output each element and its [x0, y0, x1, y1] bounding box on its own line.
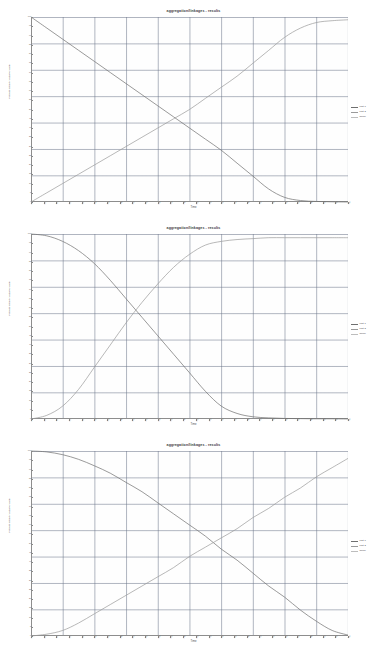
y-tick-mark [31, 243, 33, 244]
y-tick-mark [31, 544, 33, 545]
x-tick-label: 340 [247, 635, 250, 639]
legend-item[interactable]: whole [351, 549, 385, 553]
y-tick-mark [31, 627, 33, 628]
y-axis-label: Process Count / Variable Value [8, 40, 11, 124]
y-tick-mark [31, 497, 33, 498]
y-tick-mark [31, 488, 33, 489]
series-canvas [31, 451, 348, 636]
y-axis-ticks: 1009590858075706560555045403530252015105… [20, 451, 31, 636]
x-tick-label: 80 [82, 202, 85, 205]
y-tick-mark [31, 45, 33, 46]
y-tick-mark [31, 571, 33, 572]
y-axis-ticks: 1009590858075706560555045403530252015105… [20, 17, 31, 202]
chart-panel-3: aggregation/linkages - results1009590858… [0, 434, 387, 651]
x-tick-label: 40 [56, 202, 59, 205]
x-tick-label: 480 [335, 201, 338, 205]
x-axis-label: Time [0, 640, 387, 643]
x-tick-label: 500 [348, 635, 351, 639]
x-tick-label: 120 [107, 201, 110, 205]
legend-swatch-icon [351, 334, 358, 335]
y-tick-mark [31, 581, 33, 582]
chart-title: aggregation/linkages - results [0, 443, 387, 447]
y-tick-mark [31, 165, 33, 166]
legend-item[interactable]: part 2 [351, 544, 385, 548]
legend-item[interactable]: part 1 [351, 539, 385, 543]
legend-item[interactable]: part 2 [351, 327, 385, 331]
x-tick-label: 420 [297, 201, 300, 205]
x-tick-label: 500 [348, 418, 351, 422]
legend-label: whole [360, 333, 366, 335]
x-tick-label: 420 [297, 418, 300, 422]
x-tick-label: 300 [221, 201, 224, 205]
y-tick-mark [31, 119, 33, 120]
legend-label: whole [360, 550, 366, 552]
y-tick-mark [31, 262, 33, 263]
x-tick-label: 480 [335, 635, 338, 639]
x-tick-label: 160 [132, 418, 135, 422]
x-tick-label: 0 [31, 420, 33, 422]
legend-item[interactable]: whole [351, 115, 385, 119]
legend-label: part 1 [360, 106, 366, 108]
legend-item[interactable]: part 1 [351, 322, 385, 326]
x-tick-label: 260 [196, 635, 199, 639]
legend-label: part 1 [360, 323, 366, 325]
legend-item[interactable]: part 1 [351, 105, 385, 109]
x-tick-label: 460 [323, 201, 326, 205]
y-tick-mark [31, 460, 33, 461]
x-tick-label: 380 [272, 201, 275, 205]
x-tick-label: 260 [196, 418, 199, 422]
legend-item[interactable]: whole [351, 332, 385, 336]
y-tick-mark [31, 382, 33, 383]
y-tick-mark [31, 91, 33, 92]
y-tick-mark [31, 26, 33, 27]
x-tick-label: 120 [107, 418, 110, 422]
y-tick-mark [31, 451, 33, 452]
y-tick-mark [31, 174, 33, 175]
chart-title: aggregation/linkages - results [0, 9, 387, 13]
x-tick-label: 360 [259, 418, 262, 422]
chart-legend: part 1part 2whole [351, 105, 385, 120]
y-tick-mark [31, 354, 33, 355]
x-tick-label: 180 [145, 635, 148, 639]
legend-label: part 2 [360, 545, 366, 547]
plot-area [31, 451, 348, 636]
y-tick-mark [31, 327, 33, 328]
x-tick-label: 0 [31, 203, 33, 205]
x-tick-label: 280 [209, 418, 212, 422]
y-tick-mark [31, 73, 33, 74]
y-axis-ticks: 1009590858075706560555045403530252015105… [20, 234, 31, 419]
y-tick-mark [31, 553, 33, 554]
legend-swatch-icon [351, 541, 358, 542]
x-tick-label: 100 [94, 418, 97, 422]
x-tick-label: 40 [56, 419, 59, 422]
x-tick-label: 60 [69, 636, 72, 639]
y-tick-mark [31, 253, 33, 254]
x-tick-label: 440 [310, 635, 313, 639]
y-tick-mark [31, 17, 33, 18]
y-tick-mark [31, 590, 33, 591]
y-tick-mark [31, 36, 33, 37]
x-tick-label: 400 [285, 635, 288, 639]
series-canvas [31, 234, 348, 419]
x-tick-label: 460 [323, 418, 326, 422]
legend-swatch-icon [351, 117, 358, 118]
chart-legend: part 1part 2whole [351, 322, 385, 337]
y-tick-mark [31, 100, 33, 101]
chart-panel-2: aggregation/linkages - results1009590858… [0, 217, 387, 434]
legend-item[interactable]: part 2 [351, 110, 385, 114]
x-tick-label: 220 [170, 635, 173, 639]
x-tick-label: 20 [44, 636, 47, 639]
legend-label: part 2 [360, 111, 366, 113]
x-tick-label: 220 [170, 418, 173, 422]
y-tick-mark [31, 525, 33, 526]
series-canvas [31, 17, 348, 202]
x-tick-label: 300 [221, 418, 224, 422]
y-tick-mark [31, 391, 33, 392]
chart-title: aggregation/linkages - results [0, 226, 387, 230]
x-tick-label: 380 [272, 418, 275, 422]
x-tick-label: 140 [120, 635, 123, 639]
y-tick-mark [31, 82, 33, 83]
x-tick-label: 400 [285, 201, 288, 205]
y-tick-mark [31, 364, 33, 365]
x-tick-label: 360 [259, 635, 262, 639]
